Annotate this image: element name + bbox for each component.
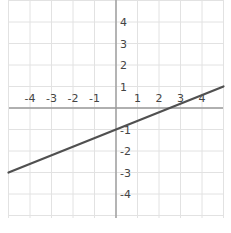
x-tick-label: 1 xyxy=(134,92,141,105)
y-tick-label: 4 xyxy=(120,16,127,29)
y-tick-label: 2 xyxy=(120,59,127,72)
x-tick-label: -4 xyxy=(25,92,36,105)
x-tick-label: -3 xyxy=(46,92,57,105)
y-tick-label: 1 xyxy=(120,81,127,94)
y-tick-label: -2 xyxy=(120,145,131,158)
y-tick-label: -4 xyxy=(120,188,131,201)
x-tick-label: -2 xyxy=(68,92,79,105)
x-tick-label: 2 xyxy=(156,92,163,105)
x-tick-label: -1 xyxy=(89,92,100,105)
y-tick-label: 3 xyxy=(120,38,127,51)
x-tick-labels: -4-3-2-11234 xyxy=(25,92,206,105)
axes xyxy=(9,0,223,218)
coordinate-plane: -4-3-2-11234 4321-1-2-3-4 xyxy=(0,0,231,233)
y-tick-label: -3 xyxy=(120,167,131,180)
